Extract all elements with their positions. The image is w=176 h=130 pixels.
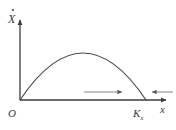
y-axis-label-text: X — [8, 12, 15, 26]
plot-canvas — [0, 0, 176, 130]
growth-rate-curve — [20, 53, 146, 100]
carrying-capacity-label: Kx — [133, 108, 143, 122]
origin-label: O — [8, 108, 16, 119]
y-axis-label: X — [8, 13, 15, 25]
logistic-growth-rate-figure: X O Kx x — [0, 0, 176, 130]
x-axis-label: x — [160, 104, 165, 115]
derivative-dot-icon — [12, 9, 14, 11]
carrying-capacity-subscript: x — [140, 114, 143, 122]
